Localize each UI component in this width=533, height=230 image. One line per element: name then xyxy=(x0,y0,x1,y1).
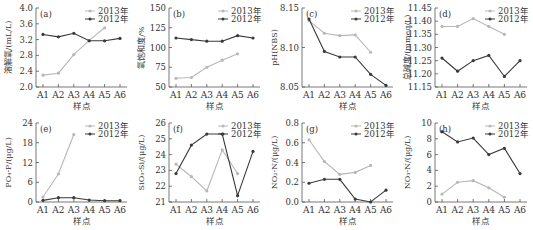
data-point xyxy=(190,38,193,41)
line-chart: 0.00.20.40.60.8A1A2A3A4A5A6样点NO₂-N/(μg/L… xyxy=(266,115,399,230)
y-axis-label: SiO₃-Si/(μg/L) xyxy=(137,135,146,191)
y-tick-label: 100 xyxy=(150,43,166,53)
series-2012 xyxy=(174,34,254,43)
data-point xyxy=(174,162,177,165)
panel-f-silicate: 212223242526A1A2A3A4A5A6样点SiO₃-Si/(μg/L)… xyxy=(133,115,266,230)
panel-h-nitrate: 0246810A1A2A3A4A5A6样点NO₃-N/(μg/L)(h)2013… xyxy=(399,115,533,230)
figure: 2.02.42.83.23.64.0A1A2A3A4A5A6样点溶解氧/(mL/… xyxy=(0,0,533,230)
data-point xyxy=(236,34,239,37)
legend: 2013年2012年 xyxy=(218,121,262,139)
data-point xyxy=(440,56,443,59)
data-point xyxy=(174,77,177,80)
line-chart: 212223242526A1A2A3A4A5A6样点SiO₃-Si/(μg/L)… xyxy=(133,115,266,230)
y-axis-label: 溶解氧/(mL/L) xyxy=(3,21,13,75)
y-tick-label: 25 xyxy=(155,134,166,144)
data-point xyxy=(338,173,341,176)
x-tick-label: A1 xyxy=(302,90,315,100)
x-tick-label: A2 xyxy=(51,205,64,215)
series-2013 xyxy=(440,179,506,199)
data-point xyxy=(205,189,208,192)
y-tick-label: 6 xyxy=(427,150,432,160)
line-chart: 5075100125150A1A2A3A4A5A6样点氧饱和度/%(b)2013… xyxy=(133,0,266,115)
data-point xyxy=(487,54,490,57)
x-tick-label: A4 xyxy=(348,90,361,100)
data-point xyxy=(338,178,341,181)
data-point xyxy=(503,75,506,78)
data-point xyxy=(338,55,341,58)
data-point xyxy=(472,136,475,139)
legend: 2013年2012年 xyxy=(351,121,395,139)
data-point xyxy=(205,40,208,43)
data-point xyxy=(190,76,193,79)
data-point xyxy=(205,132,208,135)
x-tick-label: A1 xyxy=(435,205,448,215)
y-tick-label: 21 xyxy=(155,197,166,207)
x-tick-label: A4 xyxy=(482,205,495,215)
legend-entry: 2012年 xyxy=(498,129,529,139)
data-point xyxy=(440,193,443,196)
x-tick-label: A4 xyxy=(482,90,495,100)
data-point xyxy=(472,17,475,20)
y-tick-label: 2 xyxy=(427,181,432,191)
x-axis-label: 样点 xyxy=(472,101,490,111)
series-2012 xyxy=(440,54,521,78)
data-point xyxy=(57,72,60,75)
y-tick-label: 8 xyxy=(427,134,432,144)
data-point xyxy=(456,140,459,143)
x-tick-label: A2 xyxy=(317,205,330,215)
x-tick-label: A3 xyxy=(67,90,80,100)
data-point xyxy=(323,178,326,181)
panel-label: (a) xyxy=(40,9,52,19)
x-tick-label: A1 xyxy=(36,90,49,100)
y-axis-label: NO₃-N/(μg/L) xyxy=(403,136,412,190)
panel-label: (f) xyxy=(173,124,183,134)
x-tick-label: A4 xyxy=(82,90,95,100)
y-tick-label: 3.6 xyxy=(19,19,33,29)
y-axis-label: NO₂-N/(μg/L) xyxy=(270,136,279,190)
data-point xyxy=(456,70,459,73)
panel-b-oxygen-saturation: 5075100125150A1A2A3A4A5A6样点氧饱和度/%(b)2013… xyxy=(133,0,266,115)
line-chart: 2.02.42.83.23.64.0A1A2A3A4A5A6样点溶解氧/(mL/… xyxy=(0,0,133,115)
y-axis-label: 氧饱和度/% xyxy=(136,26,146,69)
y-tick-label: 0.6 xyxy=(285,138,299,148)
data-point xyxy=(221,59,224,62)
x-tick-label: A4 xyxy=(215,90,228,100)
panel-g-nitrite: 0.00.20.40.60.8A1A2A3A4A5A6样点NO₂-N/(μg/L… xyxy=(266,115,399,230)
series-2012 xyxy=(41,32,121,43)
x-tick-label: A6 xyxy=(246,90,259,100)
data-point xyxy=(472,179,475,182)
line-chart: 06121824A1A2A3A4A5A6样点PO₄-P/(μg/L)(e)201… xyxy=(0,115,133,230)
legend-entry: 2012年 xyxy=(98,129,129,139)
x-tick-label: A2 xyxy=(184,90,197,100)
data-point xyxy=(503,147,506,150)
data-point xyxy=(338,34,341,37)
x-tick-label: A4 xyxy=(215,205,228,215)
data-point xyxy=(41,33,44,36)
x-tick-label: A2 xyxy=(450,205,463,215)
x-tick-label: A5 xyxy=(363,205,376,215)
legend: 2013年2012年 xyxy=(218,6,262,24)
panel-c-ph: 8.058.108.15A1A2A3A4A5A6样点pH(NBS)(c)2013… xyxy=(266,0,399,115)
x-axis-label: 样点 xyxy=(339,216,357,226)
series-2013 xyxy=(174,148,239,192)
data-point xyxy=(57,196,60,199)
data-point xyxy=(190,144,193,147)
data-point xyxy=(41,195,44,198)
data-point xyxy=(72,196,75,199)
data-point xyxy=(307,182,310,185)
x-tick-label: A6 xyxy=(379,90,392,100)
y-tick-label: 50 xyxy=(155,82,166,92)
y-tick-label: 8.05 xyxy=(280,82,299,92)
x-tick-label: A2 xyxy=(317,90,330,100)
x-tick-label: A3 xyxy=(333,205,346,215)
y-tick-label: 11.15 xyxy=(408,82,432,92)
data-point xyxy=(487,186,490,189)
x-tick-label: A2 xyxy=(184,205,197,215)
data-point xyxy=(205,66,208,69)
legend-entry: 2012年 xyxy=(98,14,129,24)
panel-label: (b) xyxy=(173,9,185,19)
data-point xyxy=(354,171,357,174)
x-axis-label: 样点 xyxy=(206,101,224,111)
y-tick-label: 26 xyxy=(155,118,166,128)
series-2012 xyxy=(307,17,387,87)
